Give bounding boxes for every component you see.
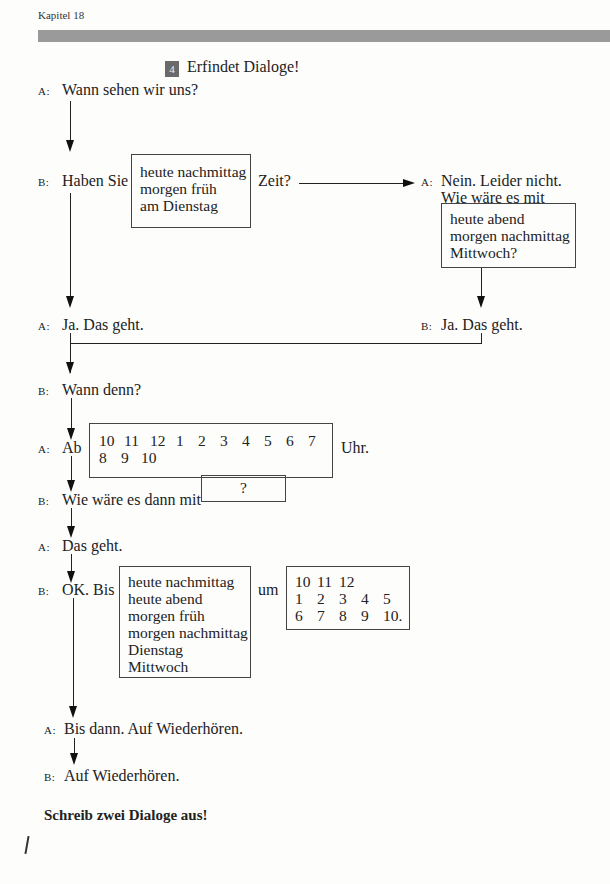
- connector-line: [299, 183, 404, 184]
- header-bar: [38, 30, 610, 42]
- speaker-b: B:: [38, 385, 49, 397]
- time: 3: [220, 432, 242, 449]
- time: 3: [339, 590, 361, 607]
- right-yes: Ja. Das geht.: [441, 316, 523, 334]
- dialog-how-about: Wie wäre es dann mit: [62, 491, 201, 509]
- time: 10: [141, 449, 157, 466]
- dialog-ok: Das geht.: [62, 537, 122, 555]
- speaker-b: B:: [44, 771, 55, 783]
- time: 7: [317, 607, 339, 624]
- time: 5: [383, 590, 391, 607]
- time: 7: [308, 432, 316, 449]
- time-options-box-3: heute nachmittag heute abend morgen früh…: [119, 566, 251, 678]
- instruction: Schreib zwei Dialoge aus!: [44, 807, 207, 824]
- connector-line: [70, 193, 71, 298]
- speaker-b: B:: [38, 495, 49, 507]
- dialog-line-2-pre: Haben Sie: [62, 172, 128, 190]
- time: 10.: [383, 607, 402, 624]
- arrow-down-icon: [69, 706, 77, 718]
- arrow-right-icon: [403, 179, 415, 187]
- speaker-b: B:: [421, 320, 432, 332]
- time: 12: [150, 432, 176, 449]
- dialog-when: Wann denn?: [62, 381, 141, 399]
- speaker-a: A:: [38, 320, 50, 332]
- time-options-box-2: heute abend morgen nachmittag Mittwoch?: [441, 203, 576, 268]
- option: morgen früh: [128, 607, 242, 624]
- time-options-box-1: heute nachmittag morgen früh am Dienstag: [131, 154, 251, 228]
- time: 6: [286, 432, 308, 449]
- speaker-a: A:: [421, 176, 433, 188]
- left-yes: Ja. Das geht.: [62, 316, 144, 334]
- speaker-b: B:: [38, 585, 49, 597]
- speaker-a: A:: [44, 724, 56, 736]
- time: 11: [317, 573, 339, 590]
- blank-box: ?: [201, 475, 286, 502]
- time: 12: [339, 573, 355, 590]
- speaker-a: A:: [38, 541, 50, 553]
- speaker-a: A:: [38, 443, 50, 455]
- times-box-2: 101112 12345 678910.: [286, 566, 410, 630]
- time: 1: [176, 432, 198, 449]
- option: Mittwoch: [128, 658, 242, 675]
- times-box-1: 1011121234567 8910: [89, 423, 333, 478]
- arrow-down-icon: [66, 362, 74, 374]
- time: 10: [295, 573, 317, 590]
- option: Mittwoch?: [450, 244, 567, 261]
- option: heute abend: [450, 210, 567, 227]
- exercise-number-badge: 4: [165, 61, 179, 77]
- time: 9: [121, 449, 141, 466]
- dialog-from-pre: Ab: [62, 439, 82, 457]
- option: Dienstag: [128, 641, 242, 658]
- time: 9: [361, 607, 383, 624]
- option: morgen früh: [140, 180, 242, 197]
- time: 4: [361, 590, 383, 607]
- connector-line: [481, 268, 482, 298]
- dialog-line-2-post: Zeit?: [258, 172, 291, 190]
- placeholder-question: ?: [202, 479, 285, 496]
- option: heute abend: [128, 590, 242, 607]
- dialog-bye-a: Bis dann. Auf Wiederhören.: [64, 720, 243, 738]
- right-reply-1: Nein. Leider nicht.: [441, 172, 562, 190]
- time: 10: [99, 432, 124, 449]
- arrow-down-icon: [477, 296, 485, 308]
- speaker-a: A:: [38, 85, 50, 97]
- time: 2: [198, 432, 220, 449]
- time: 4: [242, 432, 264, 449]
- time: 5: [264, 432, 286, 449]
- dialog-until-pre: OK. Bis: [62, 581, 114, 599]
- option: morgen nachmittag: [450, 227, 567, 244]
- connector-line: [71, 398, 72, 432]
- option: morgen nachmittag: [128, 624, 242, 641]
- dialog-until-mid: um: [258, 581, 278, 599]
- time: 11: [124, 432, 150, 449]
- time: 1: [295, 590, 317, 607]
- option: am Dienstag: [140, 197, 242, 214]
- time: 8: [99, 449, 121, 466]
- dialog-bye-b: Auf Wiederhören.: [64, 767, 179, 785]
- arrow-down-icon: [70, 753, 78, 765]
- pen-mark: [24, 836, 29, 854]
- connector-line: [73, 598, 74, 708]
- speaker-b: B:: [38, 176, 49, 188]
- dialog-line-1: Wann sehen wir uns?: [62, 81, 198, 99]
- time: 2: [317, 590, 339, 607]
- option: heute nachmittag: [140, 163, 242, 180]
- connector-line: [71, 456, 72, 482]
- arrow-down-icon: [66, 296, 74, 308]
- arrow-down-icon: [66, 140, 74, 152]
- chapter-header: Kapitel 18: [38, 9, 84, 21]
- time: 6: [295, 607, 317, 624]
- merge-line: [70, 343, 482, 344]
- exercise-title: Erfindet Dialoge!: [187, 58, 299, 76]
- time: 8: [339, 607, 361, 624]
- option: heute nachmittag: [128, 573, 242, 590]
- dialog-from-post: Uhr.: [341, 439, 369, 457]
- connector-line: [70, 101, 71, 143]
